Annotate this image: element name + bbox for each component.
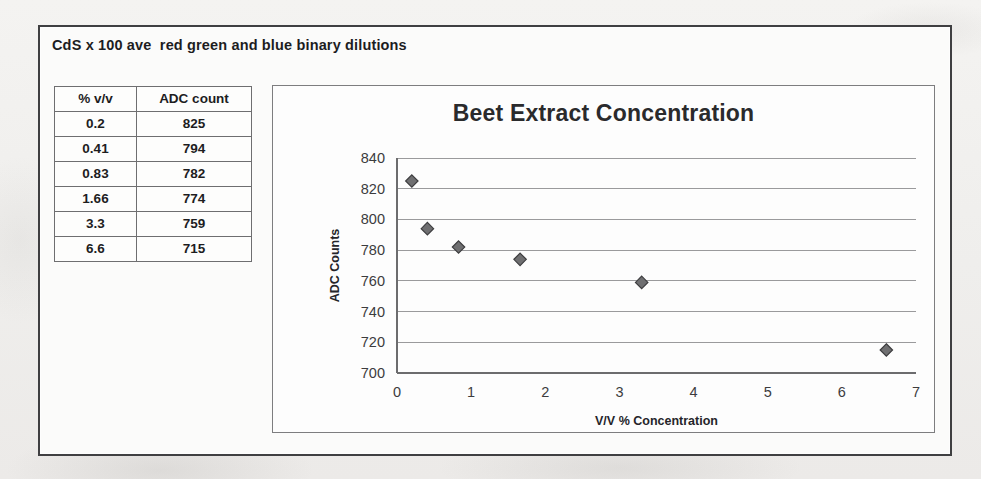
cell-adc: 782 [137,162,252,187]
document-frame: CdS x 100 ave red green and blue binary … [38,25,952,456]
chart-container: Beet Extract Concentration 7007207407607… [272,85,935,433]
data-point-marker [421,222,433,234]
cell-vv: 3.3 [55,212,137,237]
table-header-adc: ADC count [137,87,252,112]
x-tick-label: 6 [838,384,846,400]
y-tick-label: 700 [361,365,385,381]
table-body: 0.28250.417940.837821.667743.37596.6715 [55,112,252,262]
data-point-marker [514,253,526,265]
y-tick-label: 760 [361,273,385,289]
data-point-marker [452,241,464,253]
data-table: % v/v ADC count 0.28250.417940.837821.66… [54,86,252,262]
x-tick-label: 7 [912,384,920,400]
cell-vv: 1.66 [55,187,137,212]
table-row: 1.66774 [55,187,252,212]
x-tick-label: 2 [541,384,549,400]
cell-vv: 0.41 [55,137,137,162]
y-tick-label: 720 [361,334,385,350]
y-tick-label: 740 [361,304,385,320]
table-header-row: % v/v ADC count [55,87,252,112]
table-row: 0.2825 [55,112,252,137]
cell-adc: 759 [137,212,252,237]
scatter-plot: 70072074076078080082084001234567V/V % Co… [273,86,934,432]
table-row: 0.83782 [55,162,252,187]
x-tick-label: 1 [467,384,475,400]
y-tick-label: 780 [361,242,385,258]
document-title: CdS x 100 ave red green and blue binary … [52,37,407,53]
x-tick-label: 3 [615,384,623,400]
x-tick-label: 0 [393,384,401,400]
table-header-vv: % v/v [55,87,137,112]
cell-adc: 774 [137,187,252,212]
x-tick-label: 5 [764,384,772,400]
y-tick-label: 840 [361,150,385,166]
y-axis-title: ADC Counts [328,229,342,303]
cell-vv: 0.2 [55,112,137,137]
data-point-marker [406,175,418,187]
x-axis-title: V/V % Concentration [595,414,718,428]
cell-adc: 794 [137,137,252,162]
table-row: 0.41794 [55,137,252,162]
y-tick-label: 820 [361,181,385,197]
cell-vv: 6.6 [55,237,137,262]
cell-adc: 715 [137,237,252,262]
data-point-marker [880,344,892,356]
data-point-marker [635,276,647,288]
y-tick-label: 800 [361,211,385,227]
cell-adc: 825 [137,112,252,137]
x-tick-label: 4 [690,384,698,400]
cell-vv: 0.83 [55,162,137,187]
table-row: 6.6715 [55,237,252,262]
table-row: 3.3759 [55,212,252,237]
